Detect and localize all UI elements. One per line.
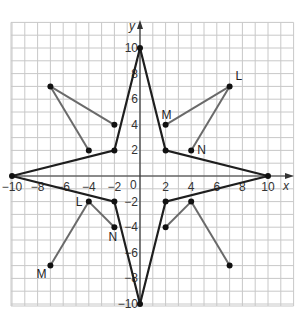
x-tick-label: 6 bbox=[213, 180, 220, 194]
point-label-L: L bbox=[76, 195, 83, 209]
triangle-edge bbox=[50, 86, 88, 150]
x-tick-label: −10 bbox=[2, 180, 23, 194]
point-L bbox=[86, 199, 92, 205]
triangle-quadrant-III: LMN bbox=[36, 195, 117, 281]
x-tick-label: −2 bbox=[108, 180, 122, 194]
star-vertex bbox=[137, 45, 143, 51]
point-N bbox=[188, 147, 194, 153]
y-tick-label: 6 bbox=[131, 92, 138, 106]
y-axis-arrow-icon bbox=[137, 20, 143, 29]
triangle-edge bbox=[166, 86, 230, 124]
triangle-edge bbox=[191, 86, 229, 150]
x-tick-label: −4 bbox=[82, 180, 96, 194]
point-label-M: M bbox=[162, 108, 172, 122]
y-tick-label: −4 bbox=[124, 220, 138, 234]
y-axis-label: y bbox=[128, 19, 136, 33]
star-vertex bbox=[265, 173, 271, 179]
point-label-M: M bbox=[36, 267, 46, 281]
triangle-quadrant-II bbox=[47, 83, 117, 153]
point-C bbox=[163, 224, 169, 230]
x-tick-label: 2 bbox=[162, 180, 169, 194]
triangle-quadrant-IV bbox=[163, 199, 233, 269]
point-label-L: L bbox=[236, 69, 243, 83]
grid bbox=[11, 22, 294, 306]
star-vertex bbox=[111, 147, 117, 153]
triangle-edge bbox=[50, 86, 114, 124]
star-vertex bbox=[163, 199, 169, 205]
point-A bbox=[47, 83, 53, 89]
point-B bbox=[111, 122, 117, 128]
triangle-quadrant-I: LMN bbox=[162, 69, 243, 157]
y-tick-label: 10 bbox=[125, 41, 139, 55]
y-tick-label: 2 bbox=[131, 143, 138, 157]
star-vertex bbox=[111, 199, 117, 205]
x-tick-label: 4 bbox=[188, 180, 195, 194]
x-axis-label: x bbox=[282, 179, 290, 193]
coordinate-plane: x y 0 −10−8−6−4−2246810108642−2−4−6−8−10… bbox=[0, 0, 305, 324]
origin-label: 0 bbox=[130, 178, 137, 192]
x-tick-label: 10 bbox=[261, 180, 275, 194]
point-C bbox=[86, 147, 92, 153]
star-vertex bbox=[9, 173, 15, 179]
y-tick-label: −10 bbox=[118, 297, 139, 311]
star-vertex bbox=[137, 301, 143, 307]
point-label-N: N bbox=[108, 230, 117, 244]
star-vertex bbox=[163, 147, 169, 153]
y-tick-label: 4 bbox=[131, 118, 138, 132]
point-L bbox=[227, 83, 233, 89]
point-M bbox=[163, 122, 169, 128]
triangle-edge bbox=[191, 202, 229, 266]
y-tick-label: −2 bbox=[124, 195, 138, 209]
triangle-edge bbox=[50, 202, 88, 266]
point-label-N: N bbox=[197, 143, 206, 157]
point-A bbox=[188, 199, 194, 205]
point-M bbox=[47, 263, 53, 269]
point-B bbox=[227, 263, 233, 269]
